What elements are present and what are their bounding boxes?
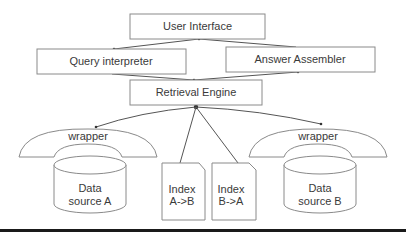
edge-ui-to-query-interpreter: [114, 39, 199, 49]
edge-retrieval-to-index-ba: [196, 107, 238, 163]
wrapper-b-label: wrapper: [297, 130, 338, 142]
node-user-interface: User Interface: [130, 14, 265, 39]
wrapper-a-label: wrapper: [67, 130, 108, 142]
answer-assembler-label: Answer Assembler: [254, 53, 345, 65]
arrow-head: [95, 126, 98, 129]
edge-query-interpreter-to-retrieval: [112, 74, 194, 80]
user-interface-label: User Interface: [163, 20, 232, 32]
data-source-b-line2: source B: [298, 195, 341, 207]
node-query-interpreter: Query interpreter: [37, 49, 186, 74]
edge-retrieval-to-wrapper-a: [96, 107, 196, 127]
node-index-ab: Index A->B: [162, 163, 205, 220]
data-source-a-line1: Data: [78, 182, 102, 194]
edge-retrieval-to-wrapper-b: [196, 107, 321, 124]
footer-divider: [0, 229, 406, 232]
node-data-source-a: Data source A: [54, 156, 126, 213]
index-ba-line1: Index: [218, 183, 245, 195]
node-wrapper-a: wrapper: [19, 129, 157, 157]
edge-retrieval-to-index-ab: [180, 107, 196, 163]
node-index-ba: Index B->A: [212, 163, 256, 220]
index-ab-line1: Index: [169, 183, 196, 195]
node-answer-assembler: Answer Assembler: [226, 47, 375, 72]
index-ab-line2: A->B: [170, 195, 195, 207]
node-retrieval-engine: Retrieval Engine: [130, 80, 262, 105]
edge-retrieval-to-answer-assembler: [194, 72, 298, 80]
retrieval-engine-label: Retrieval Engine: [156, 86, 237, 98]
architecture-diagram: User Interface Query interpreter Answer …: [0, 0, 406, 235]
node-data-source-b: Data source B: [284, 156, 356, 213]
data-source-b-line1: Data: [308, 182, 332, 194]
query-interpreter-label: Query interpreter: [69, 55, 152, 67]
edge-answer-assembler-to-ui: [199, 39, 296, 47]
arrow-head: [320, 123, 323, 126]
index-ba-line2: B->A: [219, 195, 244, 207]
node-wrapper-b: wrapper: [249, 129, 387, 157]
data-source-a-line2: source A: [69, 195, 112, 207]
